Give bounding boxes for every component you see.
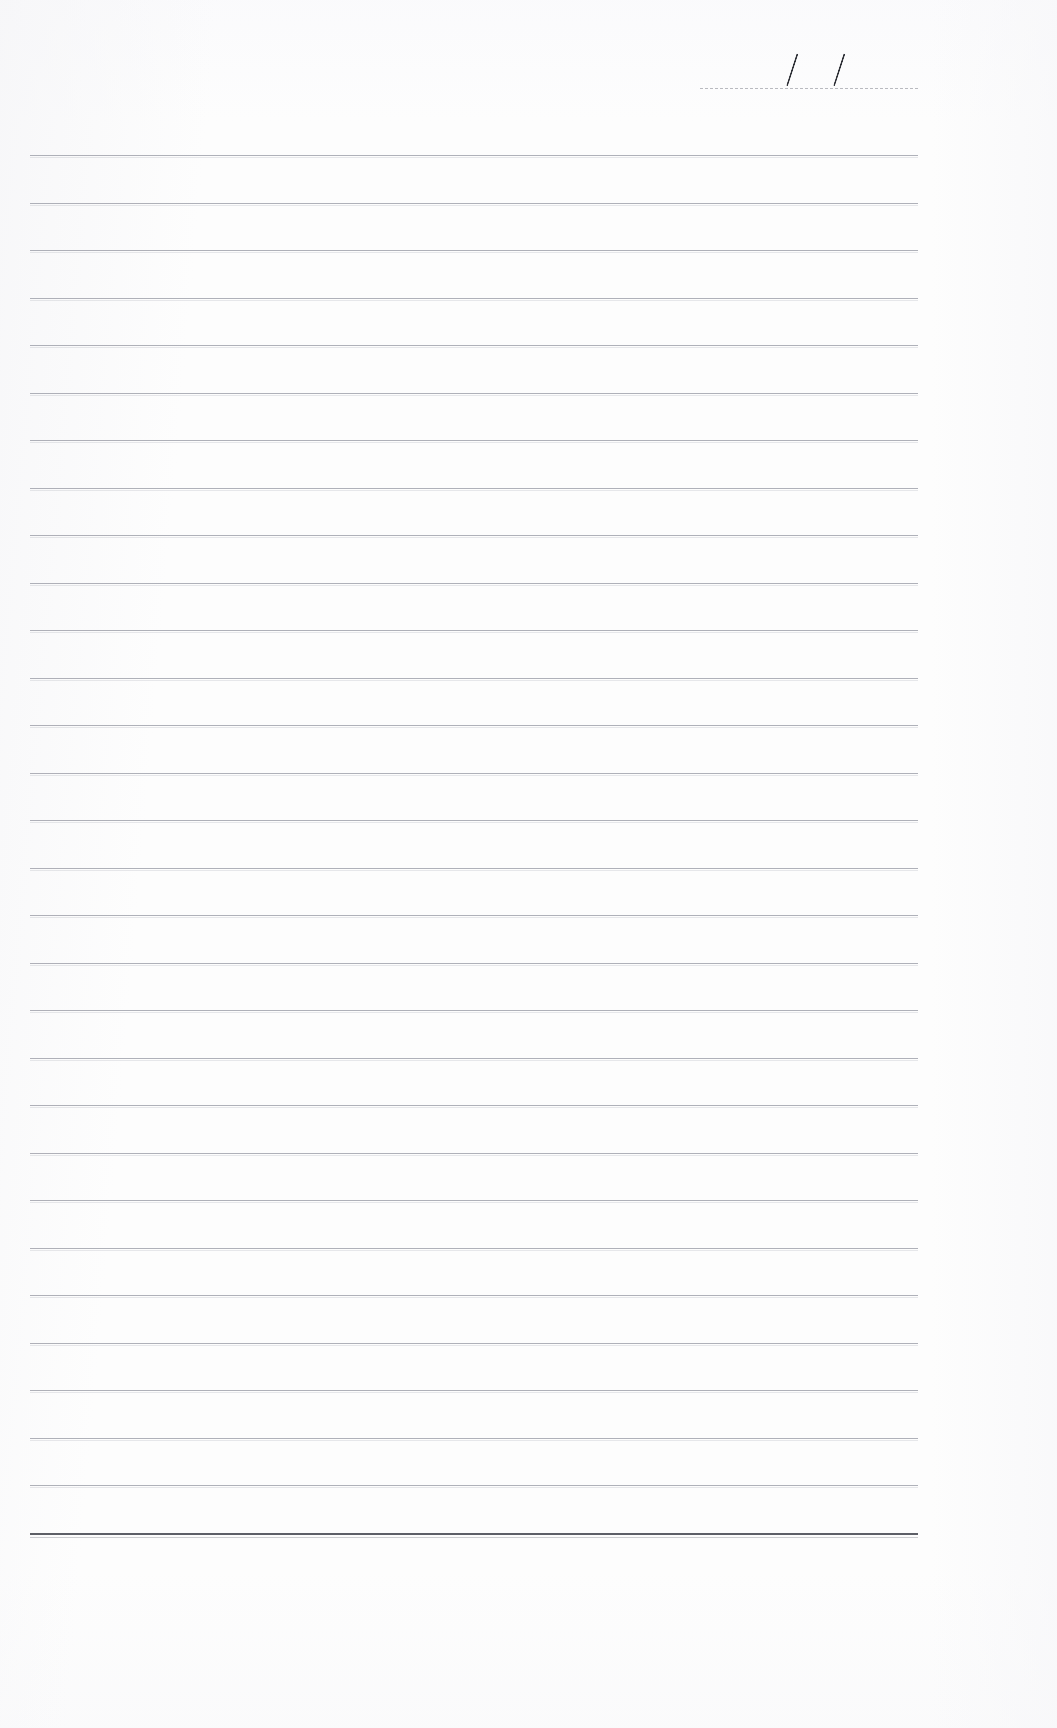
ruled-line bbox=[30, 203, 918, 204]
ruled-line bbox=[30, 393, 918, 394]
ruled-line bbox=[30, 1295, 918, 1296]
ruled-line bbox=[30, 1200, 918, 1201]
ruled-line bbox=[30, 1153, 918, 1154]
ruled-line-bottom-border bbox=[30, 1533, 918, 1535]
paper-texture bbox=[0, 0, 1057, 1728]
notebook-page bbox=[0, 0, 1057, 1728]
date-separator-slash-icon bbox=[786, 53, 798, 86]
date-separator-slash-icon bbox=[833, 53, 845, 86]
ruled-line bbox=[30, 440, 918, 441]
ruled-line bbox=[30, 725, 918, 726]
ruled-line bbox=[30, 1343, 918, 1344]
ruled-line bbox=[30, 1058, 918, 1059]
ruled-line bbox=[30, 1105, 918, 1106]
ruled-line bbox=[30, 963, 918, 964]
ruled-line bbox=[30, 345, 918, 346]
ruled-line bbox=[30, 820, 918, 821]
date-rule[interactable] bbox=[700, 88, 918, 89]
ruled-line bbox=[30, 1438, 918, 1439]
ruled-line bbox=[30, 868, 918, 869]
ruled-line bbox=[30, 1010, 918, 1011]
ruled-line bbox=[30, 773, 918, 774]
ruled-line bbox=[30, 250, 918, 251]
ruled-line bbox=[30, 1248, 918, 1249]
ruled-line bbox=[30, 488, 918, 489]
ruled-line bbox=[30, 678, 918, 679]
ruled-line bbox=[30, 535, 918, 536]
ruled-line bbox=[30, 630, 918, 631]
ruled-line bbox=[30, 1390, 918, 1391]
ruled-line bbox=[30, 583, 918, 584]
ruled-line bbox=[30, 298, 918, 299]
ruled-line bbox=[30, 915, 918, 916]
ruled-line bbox=[30, 1485, 918, 1486]
ruled-line bbox=[30, 155, 918, 156]
